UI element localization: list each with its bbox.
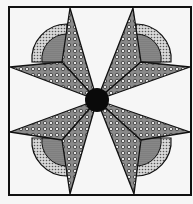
center-circle (85, 88, 109, 112)
quilt-block-diagram (0, 0, 193, 204)
